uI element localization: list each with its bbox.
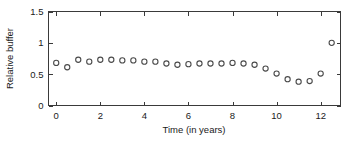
x-tick-label-10: 10	[271, 110, 282, 121]
data-point	[329, 40, 334, 45]
data-point	[76, 57, 81, 62]
x-tick-label-2: 2	[98, 110, 103, 121]
data-point	[252, 62, 257, 67]
data-point	[307, 78, 312, 83]
data-point	[142, 59, 147, 64]
data-point	[164, 61, 169, 66]
data-point	[219, 61, 224, 66]
data-point	[175, 62, 180, 67]
data-point	[98, 57, 103, 62]
y-tick-label-1: 1	[38, 37, 43, 48]
chart-figure: 024681012 00.511.5 Time (in years) Relat…	[0, 0, 354, 142]
data-point	[197, 61, 202, 66]
x-tick-label-0: 0	[54, 110, 59, 121]
data-point	[65, 65, 70, 70]
data-point	[54, 60, 59, 65]
y-axis-tick-labels: 00.511.5	[30, 6, 43, 111]
data-point	[274, 71, 279, 76]
x-axis-tick-labels: 024681012	[54, 110, 326, 121]
x-axis-ticks	[57, 12, 322, 106]
data-point	[318, 71, 323, 76]
x-axis-title: Time (in years)	[163, 124, 226, 135]
data-point	[208, 61, 213, 66]
y-tick-label-0.5: 0.5	[30, 69, 43, 80]
plot-frame	[49, 12, 341, 106]
data-point-markers	[54, 40, 335, 84]
x-tick-label-4: 4	[142, 110, 147, 121]
y-axis-title: Relative buffer	[4, 28, 15, 89]
y-axis-ticks	[49, 13, 341, 107]
data-point	[109, 57, 114, 62]
data-point	[296, 79, 301, 84]
data-point	[186, 62, 191, 67]
data-point	[153, 59, 158, 64]
data-point	[263, 66, 268, 71]
y-tick-label-0: 0	[38, 100, 43, 111]
y-tick-label-1.5: 1.5	[30, 6, 43, 17]
data-point	[120, 58, 125, 63]
data-point	[230, 60, 235, 65]
data-point	[241, 61, 246, 66]
scatter-plot-svg: 024681012 00.511.5 Time (in years) Relat…	[0, 0, 354, 142]
data-point	[87, 59, 92, 64]
x-tick-label-6: 6	[186, 110, 191, 121]
x-tick-label-12: 12	[315, 110, 326, 121]
x-tick-label-8: 8	[230, 110, 235, 121]
data-point	[131, 58, 136, 63]
data-point	[285, 77, 290, 82]
